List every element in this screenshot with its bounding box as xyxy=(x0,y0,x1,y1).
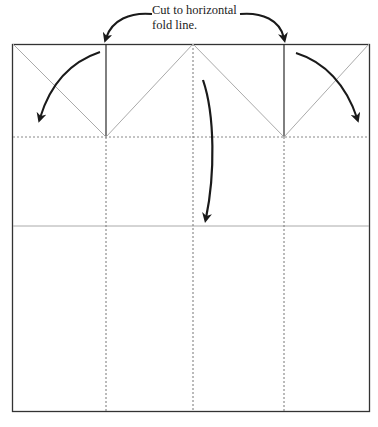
paper-square xyxy=(13,45,370,412)
pointer-arrow-left xyxy=(106,14,152,38)
fold-diagram xyxy=(0,0,378,427)
pointer-arrow-right xyxy=(240,14,284,38)
